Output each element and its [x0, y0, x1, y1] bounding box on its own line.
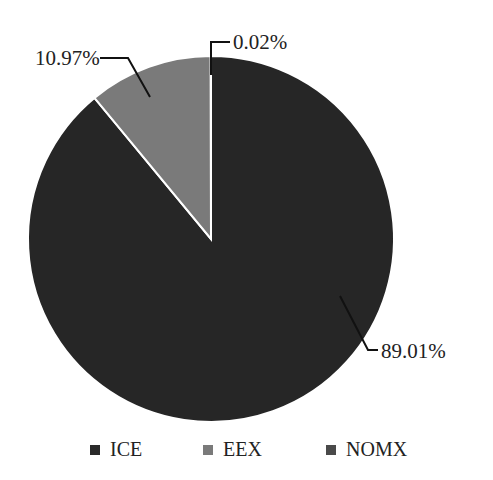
legend-label-ice: ICE — [110, 438, 142, 461]
legend-item-nomx: NOMX — [326, 438, 407, 461]
pie-slices — [28, 56, 394, 422]
data-label-ice: 89.01% — [381, 339, 446, 363]
legend-label-nomx: NOMX — [346, 438, 407, 461]
legend-swatch-eex — [203, 445, 213, 455]
data-label-eex: 10.97% — [35, 46, 100, 70]
pie-chart: 89.01%10.97%0.02% — [0, 0, 493, 440]
legend-swatch-ice — [90, 445, 100, 455]
legend-item-ice: ICE — [90, 438, 142, 461]
data-label-nomx: 0.02% — [233, 30, 287, 54]
legend-label-eex: EEX — [223, 438, 262, 461]
legend-swatch-nomx — [326, 445, 336, 455]
legend-item-eex: EEX — [203, 438, 262, 461]
legend: ICE EEX NOMX — [0, 438, 493, 466]
